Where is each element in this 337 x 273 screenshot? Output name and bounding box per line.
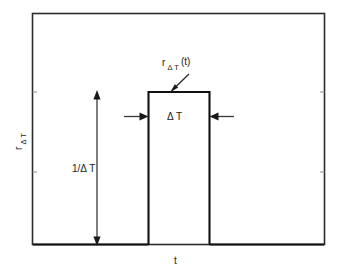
- plot-frame: [33, 14, 325, 245]
- width-arrow-right-head: [210, 113, 219, 121]
- y-axis-label-group: r Δ T: [13, 133, 28, 150]
- amplitude-arrow-head-up: [93, 90, 100, 100]
- x-axis-label: t: [174, 255, 177, 266]
- curve-label-pointer-shaft: [175, 74, 190, 88]
- curve-label-subscript: Δ T: [168, 63, 180, 72]
- width-label: Δ T: [167, 111, 182, 122]
- pulse-diagram-svg: r Δ T (t) 1/Δ T Δ T t r Δ T: [0, 0, 337, 273]
- curve-label-argument: (t): [181, 56, 190, 67]
- figure-container: r Δ T (t) 1/Δ T Δ T t r Δ T: [0, 0, 337, 273]
- y-axis-label-main: r: [13, 146, 24, 150]
- width-arrow-left-head: [140, 113, 149, 121]
- curve-label-main: r: [162, 57, 166, 68]
- amplitude-label: 1/Δ T: [72, 163, 95, 174]
- y-axis-label-subscript: Δ T: [19, 133, 28, 145]
